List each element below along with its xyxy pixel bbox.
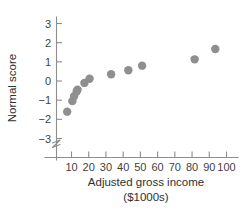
data-point-series: [63, 45, 220, 116]
x-axis-tick-labels: 102030405060708090100: [65, 161, 235, 173]
y-tick-label-6: −3: [38, 133, 51, 145]
x-tick-label-6: 70: [169, 161, 181, 173]
data-point: [124, 66, 132, 74]
x-axis-title: Adjusted gross income: [88, 176, 204, 188]
x-tick-label-4: 50: [134, 161, 146, 173]
x-tick-label-5: 60: [151, 161, 163, 173]
data-point: [190, 55, 198, 63]
y-axis-ticks: [57, 24, 63, 139]
y-tick-label-5: −2: [38, 113, 51, 125]
x-tick-label-9: 100: [217, 161, 235, 173]
y-tick-label-3: 0: [45, 75, 51, 87]
data-point: [107, 70, 115, 78]
y-tick-label-0: 3: [45, 18, 51, 30]
x-tick-label-3: 40: [117, 161, 129, 173]
y-tick-label-4: −1: [38, 94, 51, 106]
y-axis-title: Normal score: [6, 54, 18, 122]
y-tick-label-1: 2: [45, 37, 51, 49]
scatter-plot-canvas: 3210−1−2−3 102030405060708090100 Adjuste…: [0, 0, 245, 213]
x-tick-label-7: 80: [186, 161, 198, 173]
data-point: [73, 85, 81, 93]
x-axis-units-label: ($1000s): [123, 191, 169, 203]
data-point: [63, 107, 71, 115]
x-tick-label-0: 10: [65, 161, 77, 173]
data-point: [85, 75, 93, 83]
x-axis-ticks: [72, 152, 227, 158]
x-axis-group: 102030405060708090100: [45, 152, 238, 174]
y-axis-group: 3210−1−2−3: [38, 17, 62, 160]
y-tick-label-2: 1: [45, 56, 51, 68]
y-axis-tick-labels: 3210−1−2−3: [38, 18, 51, 145]
data-point: [138, 61, 146, 69]
data-point: [211, 45, 219, 53]
x-tick-label-2: 30: [100, 161, 112, 173]
y-axis-break-icon: [53, 140, 61, 148]
normal-probability-plot-figure: 3210−1−2−3 102030405060708090100 Adjuste…: [0, 0, 245, 213]
x-tick-label-8: 90: [203, 161, 215, 173]
x-tick-label-1: 20: [83, 161, 95, 173]
